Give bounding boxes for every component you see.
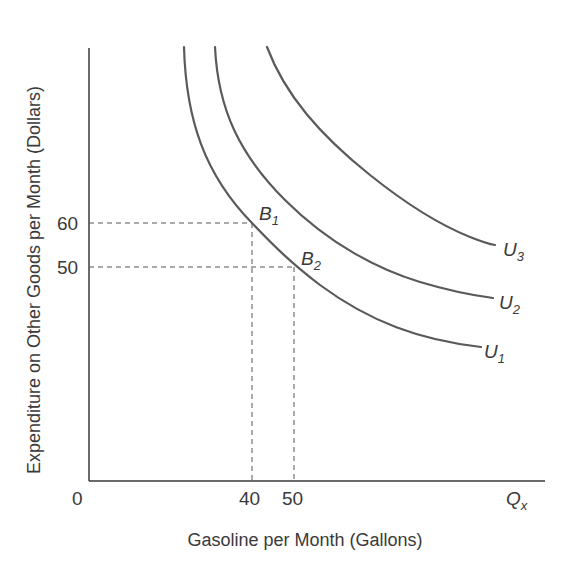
x-tick-40: 40 xyxy=(239,488,260,509)
curve-u2 xyxy=(215,47,493,298)
curve-label-u2: U2 xyxy=(499,292,521,317)
curve-label-u3: U3 xyxy=(503,239,525,264)
y-tick-50: 50 xyxy=(57,257,78,278)
curve-label-u1: U1 xyxy=(484,341,505,366)
guide-lines xyxy=(89,223,294,481)
point-label-b1: B1 xyxy=(259,203,279,228)
x-end-label-qx: Qx xyxy=(506,488,528,513)
x-axis-title: Gasoline per Month (Gallons) xyxy=(187,530,422,550)
curve-u1 xyxy=(184,47,481,347)
x-tick-0: 0 xyxy=(72,488,83,509)
y-axis-title: Expenditure on Other Goods per Month (Do… xyxy=(24,86,44,474)
indifference-curve-chart: 60 50 0 40 50 Qx B1 B2 U3 U2 U1 Gasoline… xyxy=(0,0,563,564)
y-tick-60: 60 xyxy=(57,213,78,234)
x-tick-50: 50 xyxy=(282,488,303,509)
point-label-b2: B2 xyxy=(301,248,322,273)
